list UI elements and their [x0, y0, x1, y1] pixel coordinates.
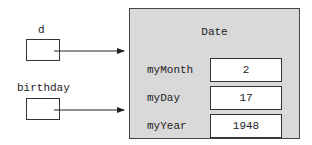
reference-arrows: [0, 0, 312, 145]
